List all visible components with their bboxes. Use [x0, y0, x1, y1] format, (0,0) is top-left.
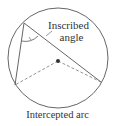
radius-right-dashed — [58, 61, 101, 82]
radius-left-dashed — [15, 61, 58, 85]
pointer-line — [29, 37, 31, 40]
angle-marker-arc — [22, 36, 39, 41]
inscribed-angle-label: Inscribed angle — [48, 20, 89, 43]
center-dot — [56, 59, 60, 63]
intercepted-arc-label: Intercepted arc — [0, 110, 115, 121]
chord-left — [15, 23, 24, 85]
inscribed-label-line2: angle — [48, 32, 89, 43]
inscribed-label-line1: Inscribed — [48, 20, 89, 31]
